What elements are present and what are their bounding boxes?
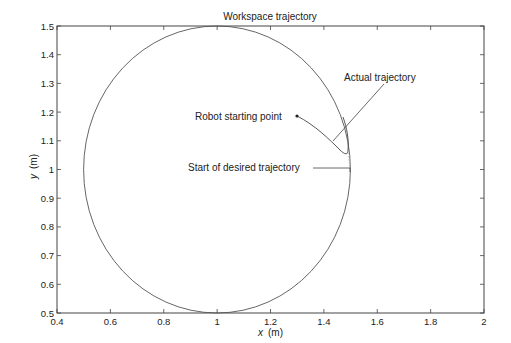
annotation-start: Robot starting point (195, 111, 282, 122)
annotation-desired-leader (313, 168, 350, 172)
chart: 0.40.60.811.21.41.61.82 0.50.60.70.80.91… (0, 0, 511, 343)
y-tick-label: 1.3 (41, 78, 54, 89)
y-tick-label: 1.2 (41, 107, 54, 118)
svg-text:x: x (257, 327, 264, 338)
y-tick-label: 1.4 (41, 49, 54, 60)
annotation-actual: Actual trajectory (344, 72, 416, 83)
robot-start-marker (295, 114, 298, 117)
x-tick-label: 1 (214, 316, 219, 327)
x-axis-ticks: 0.40.60.811.21.41.61.82 (50, 26, 486, 327)
x-tick-label: 0.8 (157, 316, 170, 327)
x-tick-label: 1.8 (424, 316, 437, 327)
y-tick-label: 0.5 (41, 308, 54, 319)
x-tick-label: 1.2 (264, 316, 277, 327)
svg-text:(m): (m) (268, 327, 283, 338)
y-tick-label: 0.7 (41, 250, 54, 261)
y-tick-label: 0.8 (41, 221, 54, 232)
x-tick-label: 1.4 (317, 316, 330, 327)
x-axis-label: x (m) (257, 327, 283, 338)
chart-title: Workspace trajectory (223, 11, 317, 22)
y-axis-label: y (m) (28, 154, 39, 180)
y-tick-label: 0.9 (41, 193, 54, 204)
y-tick-label: 1 (49, 164, 54, 175)
y-tick-label: 0.6 (41, 279, 54, 290)
actual-trajectory (297, 116, 348, 154)
y-tick-label: 1.1 (41, 135, 54, 146)
y-tick-label: 1.5 (41, 21, 54, 32)
x-tick-label: 2 (481, 316, 486, 327)
x-tick-label: 0.6 (104, 316, 117, 327)
annotation-desired-start: Start of desired trajectory (188, 162, 300, 173)
svg-text:y: y (28, 173, 39, 180)
svg-text:(m): (m) (28, 154, 39, 169)
annotation-actual-leader (333, 84, 384, 141)
x-tick-label: 1.6 (371, 316, 384, 327)
